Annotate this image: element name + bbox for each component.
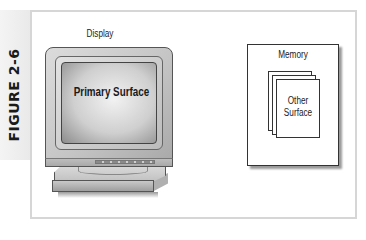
primary-surface-label: Primary Surface — [74, 85, 145, 99]
other-surface-label-line1: Other — [282, 95, 315, 106]
figure-label: FIGURE 2-6 — [2, 40, 26, 150]
display-label: Display — [82, 28, 118, 39]
monitor-base-front — [52, 180, 154, 192]
monitor-control-buttons — [95, 160, 155, 164]
monitor-screen — [61, 62, 157, 144]
other-surface-label-line2: Surface — [282, 107, 315, 118]
monitor-swivel — [78, 167, 148, 175]
monitor-base-shadow — [58, 192, 158, 198]
memory-label: Memory — [273, 49, 314, 60]
